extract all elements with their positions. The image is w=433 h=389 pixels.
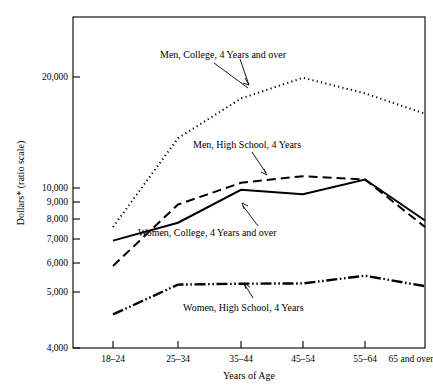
x-tick-label-65-and-over: 65 and over [389,354,433,364]
leader-women-highschool [245,285,253,298]
annotation-labels: Men, College, 4 Years and over Men, High… [138,49,304,313]
y-tick-label-7000: 7,000 [47,234,69,244]
x-tick-label-35-44: 35–44 [229,354,253,364]
leader-men-highschool-arrowhead [261,169,267,175]
x-axis-tick-labels: 18–24 25–34 35–44 45–54 55–64 65 and ove… [101,354,433,364]
annotation-leaders [214,59,267,298]
y-tick-label-9000: 9,000 [47,197,69,207]
annotation-women-highschool: Women, High School, 4 Years [183,302,304,313]
y-tick-label-4000: 4,000 [47,343,69,353]
x-axis-title: Years of Age [223,370,275,381]
y-axis-title: Dollars* (ratio scale) [15,141,27,225]
leader-women-college [243,206,258,226]
annotation-men-college: Men, College, 4 Years and over [160,49,287,60]
y-axis-ticks [73,77,80,348]
x-tick-label-55-64: 55–64 [353,354,377,364]
x-tick-label-25-34: 25–34 [166,354,190,364]
y-tick-label-10000: 10,000 [42,183,68,193]
x-axis-ticks [113,341,365,348]
y-tick-label-5000: 5,000 [47,287,69,297]
y-tick-label-20000: 20,000 [42,72,68,82]
x-tick-label-45-54: 45–54 [291,354,315,364]
chart-figure: 20,000 10,000 9,000 8,000 7,000 6,000 5,… [0,0,433,389]
leader-men-college-arrowhead [240,59,249,85]
leader-men-highschool [252,152,266,173]
series-line-men-college [113,78,425,227]
x-tick-label-18-24: 18–24 [101,354,125,364]
plot-frame [73,17,425,348]
line-chart-canvas: 20,000 10,000 9,000 8,000 7,000 6,000 5,… [0,0,433,389]
y-tick-label-8000: 8,000 [47,214,69,224]
series-group [113,78,425,315]
annotation-men-highschool: Men, High School, 4 Years [193,139,301,150]
annotation-women-college: Women, College, 4 Years and over [138,227,277,238]
y-axis-tick-labels: 20,000 10,000 9,000 8,000 7,000 6,000 5,… [42,72,68,353]
y-tick-label-6000: 6,000 [47,258,69,268]
